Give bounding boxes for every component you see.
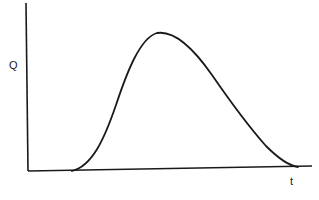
q-curve bbox=[72, 33, 298, 171]
x-axis bbox=[28, 166, 312, 171]
plot-area bbox=[0, 0, 319, 200]
x-axis-label: t bbox=[290, 176, 293, 187]
hydrograph-figure: Q t bbox=[0, 0, 319, 200]
y-axis bbox=[26, 3, 28, 171]
y-axis-label: Q bbox=[9, 60, 18, 71]
